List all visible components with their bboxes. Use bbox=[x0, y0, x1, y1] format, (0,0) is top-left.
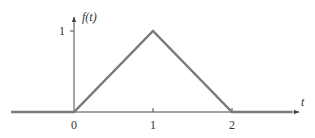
x-axis-label: t bbox=[301, 95, 305, 109]
x-tick-label-0: 0 bbox=[71, 118, 77, 132]
y-tick-label-1: 1 bbox=[59, 24, 65, 38]
function-curve bbox=[11, 31, 292, 112]
y-axis-label: f(t) bbox=[82, 10, 97, 24]
x-tick-label-1: 1 bbox=[150, 118, 156, 132]
triangular-pulse-chart: f(t) t 1 0 1 2 bbox=[0, 0, 315, 138]
x-tick-label-2: 2 bbox=[229, 118, 235, 132]
